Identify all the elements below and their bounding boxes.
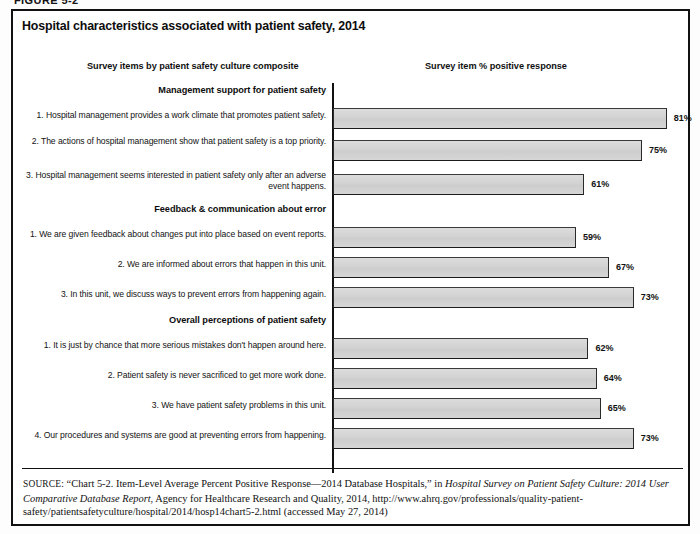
figure-page: FIGURE 5-2 Hospital characteristics asso… <box>0 0 700 534</box>
survey-item-label: 2. The actions of hospital management sh… <box>26 136 326 147</box>
bar <box>333 428 634 449</box>
source-keyword: SOURCE: <box>23 479 64 489</box>
bar-value-label: 67% <box>616 262 634 272</box>
survey-item-label: 4. Our procedures and systems are good a… <box>26 430 326 441</box>
survey-item-label: 1. It is just by chance that more seriou… <box>26 340 326 351</box>
bar <box>333 108 667 129</box>
group-heading: Management support for patient safety <box>26 85 326 95</box>
bar <box>333 368 597 389</box>
bar <box>333 287 634 308</box>
group-heading: Feedback & communication about error <box>26 204 326 214</box>
bar <box>333 338 588 359</box>
bar-value-label: 61% <box>591 179 609 189</box>
bar-chart: Management support for patient safety1. … <box>13 11 692 528</box>
group-heading: Overall perceptions of patient safety <box>26 315 326 325</box>
bar-value-label: 73% <box>641 292 659 302</box>
survey-item-label: 2. We are informed about errors that hap… <box>26 259 326 270</box>
bar-value-label: 64% <box>604 373 622 383</box>
bar <box>333 140 642 161</box>
figure-number: FIGURE 5-2 <box>14 0 79 4</box>
footer-divider <box>22 468 683 469</box>
survey-item-label: 3. We have patient safety problems in th… <box>26 400 326 411</box>
survey-item-label: 1. We are given feedback about changes p… <box>26 229 326 240</box>
source-text-part1: “Chart 5-2. Item-Level Average Percent P… <box>64 478 445 489</box>
bar-value-label: 73% <box>641 433 659 443</box>
bar <box>333 257 609 278</box>
bar-value-label: 59% <box>583 232 601 242</box>
bar <box>333 174 584 195</box>
survey-item-label: 3. Hospital management seems interested … <box>26 170 326 193</box>
survey-item-label: 3. In this unit, we discuss ways to prev… <box>26 289 326 300</box>
source-note: SOURCE: “Chart 5-2. Item-Level Average P… <box>23 477 683 519</box>
bar-value-label: 62% <box>595 343 613 353</box>
figure-frame: Hospital characteristics associated with… <box>11 9 690 526</box>
bar <box>333 398 601 419</box>
bar-value-label: 81% <box>674 113 692 123</box>
bar <box>333 227 576 248</box>
survey-item-label: 1. Hospital management provides a work c… <box>26 110 326 121</box>
bar-value-label: 75% <box>649 145 667 155</box>
bar-value-label: 65% <box>608 403 626 413</box>
survey-item-label: 2. Patient safety is never sacrificed to… <box>26 370 326 381</box>
